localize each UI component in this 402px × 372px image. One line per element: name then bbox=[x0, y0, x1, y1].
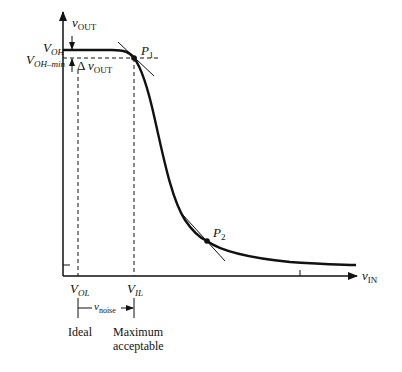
voh-label: VOH bbox=[43, 40, 64, 57]
x-axis-label: vIN bbox=[362, 268, 378, 285]
y-axis-label: vOUT bbox=[72, 15, 97, 32]
vnoise-label: vnoise bbox=[94, 300, 116, 315]
p2-point bbox=[204, 238, 210, 244]
maximum-label: Maximum bbox=[113, 325, 164, 339]
p1-point bbox=[131, 55, 137, 61]
delta-vout-label: Δ vOUT bbox=[77, 58, 113, 75]
vil-label: VIL bbox=[127, 281, 143, 298]
p1-label: P1 bbox=[140, 43, 153, 60]
p2-label: P2 bbox=[212, 225, 225, 242]
vol-label: VOL bbox=[70, 281, 89, 298]
acceptable-label: acceptable bbox=[113, 339, 164, 353]
ideal-label: Ideal bbox=[68, 325, 93, 339]
diagram-canvas: vOUT VOH VOH–min Δ vOUT P1 P2 vIN VOL VI… bbox=[0, 0, 402, 372]
vtc-curve bbox=[63, 50, 356, 265]
vtc-diagram: vOUT VOH VOH–min Δ vOUT P1 P2 vIN VOL VI… bbox=[0, 0, 402, 372]
